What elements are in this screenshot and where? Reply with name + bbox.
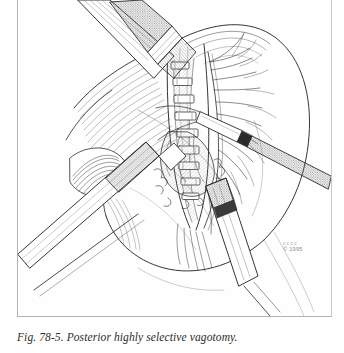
artist-credit: cccc © 1995 <box>283 240 331 253</box>
surgical-illustration <box>18 0 331 316</box>
figure-page: cccc © 1995 Fig. 78-5. Posterior highly … <box>0 0 344 353</box>
figure-caption: Fig. 78-5. Posterior highly selective va… <box>17 331 238 343</box>
illustration-plate: cccc © 1995 <box>18 0 331 316</box>
page-rule-bottom <box>17 316 332 317</box>
page-rule-right <box>331 0 332 317</box>
copyright-notice: © 1995 <box>283 247 331 253</box>
